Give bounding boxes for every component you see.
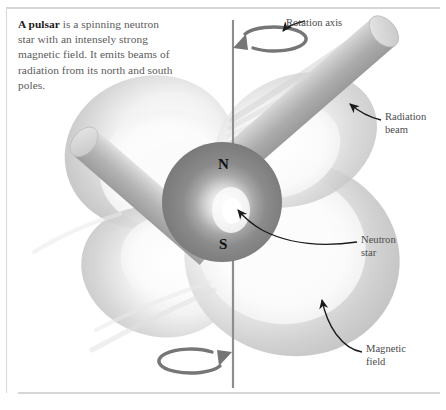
label-magnetic-field: Magnetic field: [366, 342, 406, 368]
label-south-pole: S: [219, 236, 227, 253]
rotation-arrow-bottom: [159, 349, 232, 373]
label-north-pole: N: [218, 156, 229, 173]
label-radiation-beam: Radiation beam: [385, 110, 426, 136]
pulsar-diagram: A pulsar is a spinning neutron star with…: [0, 0, 446, 410]
label-neutron-star: Neutron star: [361, 233, 396, 259]
label-rotation-axis: Rotation axis: [286, 16, 342, 29]
caption-lead: A pulsar: [18, 18, 60, 30]
caption: A pulsar is a spinning neutron star with…: [18, 17, 178, 93]
rotation-arrow-top: [233, 27, 306, 51]
